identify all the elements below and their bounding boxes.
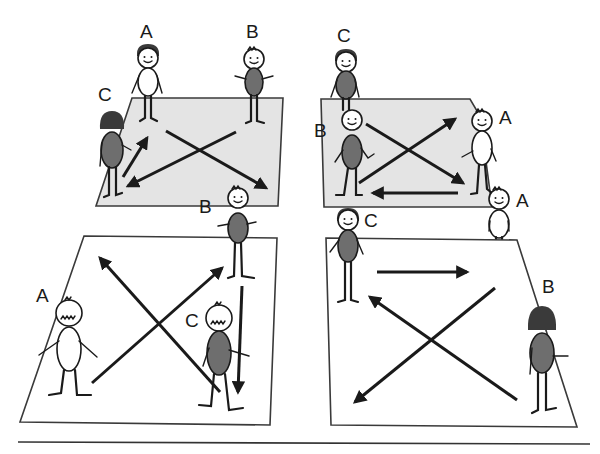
- court-top-left: [96, 98, 283, 206]
- label-c: C: [364, 210, 378, 231]
- court-bottom-left: [20, 236, 277, 425]
- label-b: B: [314, 120, 327, 141]
- label-c: C: [337, 25, 351, 46]
- label-c: C: [98, 84, 112, 105]
- label-c: C: [185, 310, 199, 331]
- label-a: A: [499, 107, 512, 128]
- bottom-rule: [18, 442, 590, 444]
- label-a-2: A: [516, 190, 529, 211]
- drill-diagram: A B C: [0, 0, 600, 454]
- label-b: B: [246, 21, 259, 42]
- label-a: A: [140, 21, 153, 42]
- label-a: A: [36, 285, 49, 306]
- panel-top-left: A B C: [96, 21, 283, 206]
- label-b: B: [542, 276, 555, 297]
- label-b: B: [199, 196, 212, 217]
- panel-bottom-right: C B: [326, 208, 577, 427]
- panel-bottom-left: B A C: [20, 186, 277, 425]
- court-bottom-right: [326, 238, 577, 427]
